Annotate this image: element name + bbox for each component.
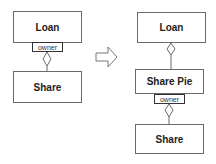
class-label: Share [156, 134, 184, 145]
class-label: Loan [160, 22, 184, 33]
class-label: Loan [36, 22, 60, 33]
class-box-share: Share [135, 124, 204, 154]
qualifier-owner: owner [32, 42, 63, 52]
class-box-loan: Loan [137, 12, 206, 43]
aggregation-diamond-icon [167, 43, 175, 55]
class-box-loan: Loan [13, 11, 82, 43]
qualifier-owner: owner [154, 94, 185, 104]
qualifier-label: owner [38, 44, 57, 51]
qualifier-label: owner [160, 96, 179, 103]
aggregation-diamond-icon [165, 104, 173, 117]
aggregation-diamond-icon [43, 52, 51, 66]
transform-arrow-icon [96, 47, 117, 67]
class-box-share-pie: Share Pie [135, 69, 204, 94]
class-box-share: Share [13, 71, 82, 103]
class-label: Share [34, 82, 62, 93]
class-label: Share Pie [147, 76, 193, 87]
